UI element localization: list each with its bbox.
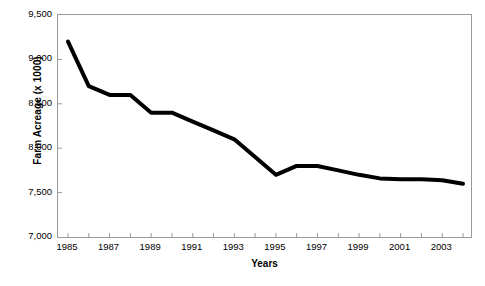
- y-tick-label: 8,000: [12, 142, 52, 152]
- y-tick-label: 9,000: [12, 53, 52, 63]
- x-tick-label: 1991: [172, 241, 212, 252]
- x-tick-label: 1995: [255, 241, 295, 252]
- x-tick-label: 1999: [338, 241, 378, 252]
- y-tick-label: 7,500: [12, 187, 52, 197]
- x-tick-label: 1993: [213, 241, 253, 252]
- x-tick-label: 2003: [421, 241, 461, 252]
- figure-caption: [24, 276, 484, 286]
- farm-acreage-line: [68, 42, 463, 184]
- y-tick-label: 9,500: [12, 9, 52, 19]
- plot-area: [57, 14, 472, 238]
- x-axis-tick-labels: 1985198719891991199319951997199920012003: [0, 241, 485, 255]
- y-tick-label: 8,500: [12, 98, 52, 108]
- x-axis-title: Years: [57, 258, 472, 269]
- x-tick-label: 1997: [296, 241, 336, 252]
- y-axis-tick-marks: [58, 59, 62, 192]
- x-tick-label: 1987: [89, 241, 129, 252]
- line-series-svg: [58, 15, 471, 237]
- y-tick-label: 7,000: [12, 231, 52, 241]
- x-tick-label: 1989: [130, 241, 170, 252]
- x-axis-tick-marks: [68, 233, 463, 237]
- x-tick-label: 2001: [380, 241, 420, 252]
- chart-figure: Farm Acreage (x 1000) 9,5009,0008,5008,0…: [0, 0, 485, 286]
- x-tick-label: 1985: [47, 241, 87, 252]
